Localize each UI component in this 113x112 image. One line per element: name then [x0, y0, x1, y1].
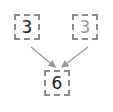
- sum-value: 6: [52, 75, 63, 92]
- arrow-right-to-sum: [62, 47, 88, 67]
- right-addend-value: 3: [80, 19, 91, 36]
- sum-box: 6: [44, 70, 70, 96]
- right-addend-box: 3: [72, 14, 98, 40]
- left-addend-value: 3: [22, 19, 33, 36]
- left-addend-box: 3: [14, 14, 40, 40]
- arrow-left-to-sum: [31, 47, 55, 67]
